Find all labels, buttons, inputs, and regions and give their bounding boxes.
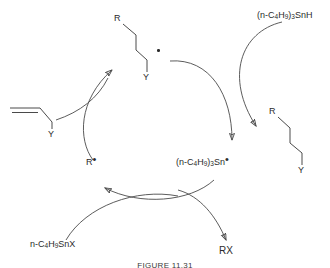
carbon-radical-label: R•	[86, 158, 96, 167]
adduct-radical-structure	[123, 24, 147, 72]
reagent-arc-tin-halide-to-rx	[66, 194, 178, 240]
tin-hydride-label: (n-C4H9)3SnH	[257, 11, 312, 21]
tin-radical-dot: •	[225, 153, 229, 165]
tin-radical-suffix: Sn	[214, 157, 225, 167]
carbon-radical-dot: •	[93, 153, 97, 165]
tin-radical-prefix: (n-C	[176, 157, 194, 167]
reagent-arc-rx-exit	[178, 190, 226, 240]
reagent-line-alkene-entry	[56, 78, 108, 120]
alkene-y-label: Y	[48, 130, 54, 139]
tin-halide-prefix: n-C	[30, 239, 45, 249]
tin-halide-suffix: SnX	[58, 239, 75, 249]
tin-radical-label: (n-C4H9)3Sn•	[176, 158, 229, 168]
alkyl-halide-label: RX	[219, 246, 233, 256]
tin-hydride-prefix: (n-C	[257, 10, 275, 20]
figure-caption: FIGURE 11.31	[0, 261, 330, 268]
cycle-arrow-h-abstraction	[170, 61, 232, 140]
tin-halide-label: n-C4H9SnX	[30, 240, 75, 250]
product-r-label: R	[269, 107, 276, 116]
radical-chain-mechanism-figure: Y R Y R Y (n-C4H9)3SnH (n-C4H9)3Sn• n-C4…	[0, 0, 330, 268]
product-structure	[278, 117, 302, 165]
tin-hydride-suffix: SnH	[295, 10, 313, 20]
cycle-arrow-radical-addition	[83, 70, 112, 160]
adduct-r-label: R	[114, 14, 121, 23]
product-y-label: Y	[298, 166, 304, 175]
alkene-reactant-structure	[10, 108, 52, 129]
cycle-arrow-halogen-abstraction	[105, 180, 214, 199]
adduct-y-label: Y	[143, 73, 149, 82]
adduct-radical-dot	[157, 49, 160, 52]
